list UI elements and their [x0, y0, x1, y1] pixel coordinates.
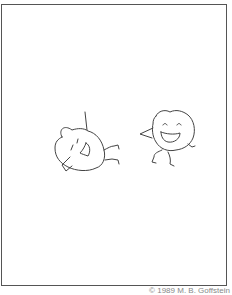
left-figure — [55, 112, 119, 171]
copyright-credit: © 1989 M. B. Goffstein — [149, 286, 230, 295]
right-figure — [140, 111, 195, 166]
